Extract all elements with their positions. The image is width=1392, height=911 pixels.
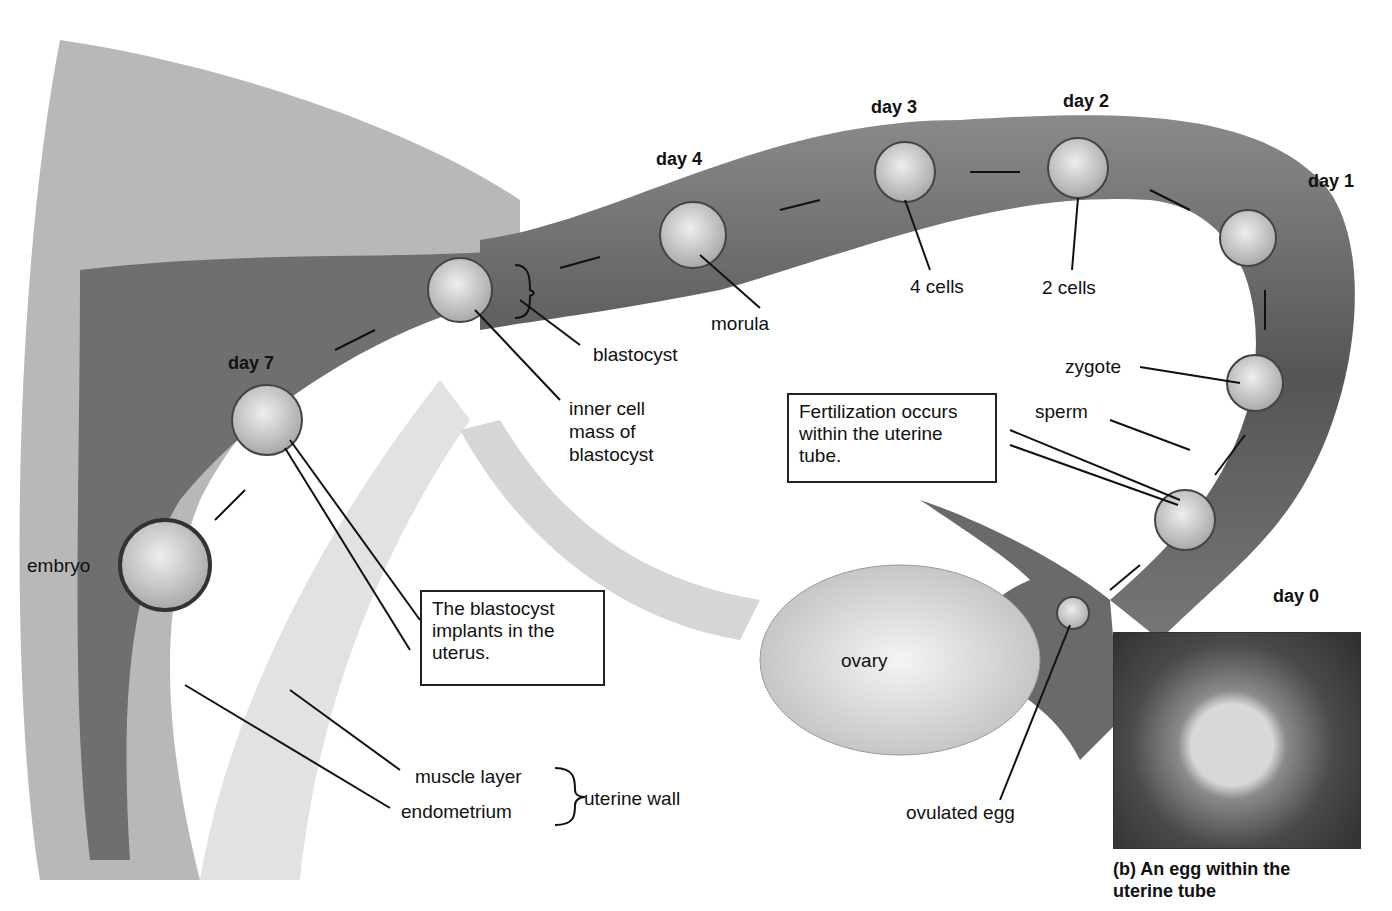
day-4-label: day 4 <box>656 148 702 170</box>
day-2-label: day 2 <box>1063 90 1109 112</box>
blastocyst-label: blastocyst <box>593 344 677 366</box>
implantation-callout: The blastocyst implants in the uterus. <box>420 590 605 686</box>
endometrium-label: endometrium <box>401 801 512 823</box>
inset-caption-line2: uterine tube <box>1113 880 1290 902</box>
uterine-wall-label: uterine wall <box>584 788 680 810</box>
inset-caption: (b) An egg within the uterine tube <box>1113 858 1290 902</box>
day7-blastocyst <box>232 385 302 455</box>
morula-cell <box>660 202 726 268</box>
zygote-label: zygote <box>1065 356 1121 378</box>
sperm-label: sperm <box>1035 401 1088 423</box>
ovary-label: ovary <box>841 650 887 672</box>
embryo-label: embryo <box>27 555 90 577</box>
inset-caption-line1: (b) An egg within the <box>1113 858 1290 880</box>
inner-cell-mass-label-line1: inner cell <box>569 398 645 420</box>
inner-cell-mass-label-line3: blastocyst <box>569 444 653 466</box>
two-cells-label: 2 cells <box>1042 277 1096 299</box>
morula-label: morula <box>711 313 769 335</box>
egg-micrograph-image <box>1113 632 1361 849</box>
ovary-shape <box>760 565 1040 755</box>
day-7-label: day 7 <box>228 352 274 374</box>
embryo-cell <box>120 520 210 610</box>
inner-cell-mass-label-line2: mass of <box>569 421 636 443</box>
day-3-label: day 3 <box>871 96 917 118</box>
ovulated-egg-label: ovulated egg <box>906 802 1015 824</box>
fertilization-callout: Fertilization occurs within the uterine … <box>787 393 997 483</box>
ovulated-egg-cell <box>1057 597 1089 629</box>
muscle-layer-label: muscle layer <box>415 766 522 788</box>
four-cell-stage <box>875 142 935 202</box>
day-0-label: day 0 <box>1273 585 1319 607</box>
four-cells-label: 4 cells <box>910 276 964 298</box>
fertilization-implantation-diagram: day 1 day 2 day 3 day 4 day 7 day 0 4 ce… <box>0 0 1392 911</box>
two-cell-stage <box>1048 138 1108 198</box>
day-1-label: day 1 <box>1308 170 1354 192</box>
day1-cell <box>1220 210 1276 266</box>
blastocyst-cell <box>428 258 492 322</box>
